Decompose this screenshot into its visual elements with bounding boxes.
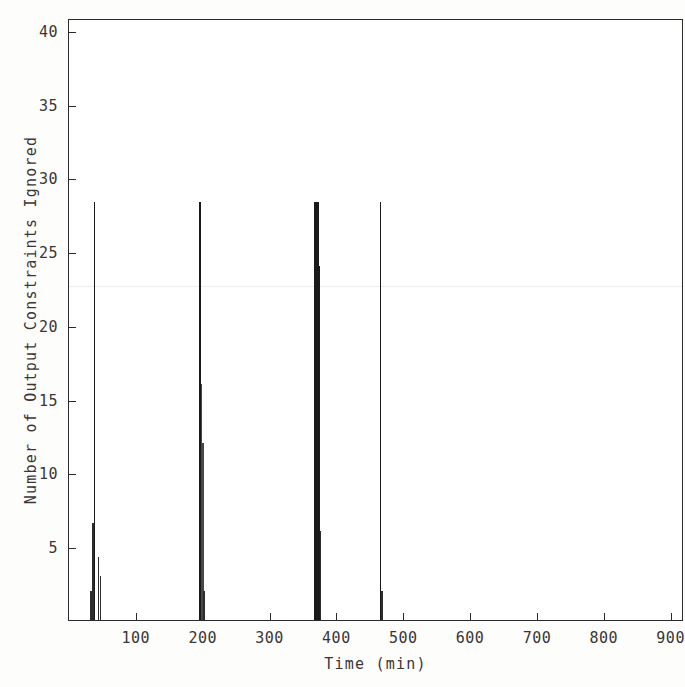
y-tick-25	[69, 253, 76, 254]
x-tick-900	[671, 613, 672, 620]
data-spike	[380, 202, 382, 620]
chart-figure: 510152025303540 100200300400500600700800…	[0, 0, 685, 687]
x-tick-label-600: 600	[456, 629, 485, 647]
data-spike	[100, 576, 102, 620]
y-tick-10	[69, 474, 76, 475]
x-tick-300	[270, 613, 271, 620]
x-tick-label-500: 500	[389, 629, 418, 647]
x-tick-400	[336, 613, 337, 620]
plot-area: 510152025303540 100200300400500600700800…	[68, 19, 683, 621]
x-tick-label-400: 400	[322, 629, 351, 647]
y-tick-15	[69, 401, 76, 402]
x-tick-700	[537, 613, 538, 620]
x-tick-label-300: 300	[255, 629, 284, 647]
data-spike	[381, 591, 383, 621]
y-tick-label-5: 5	[48, 539, 58, 557]
y-axis-title: Number of Output Constraints Ignored	[22, 19, 48, 621]
y-tick-35	[69, 106, 76, 107]
y-tick-5	[69, 548, 76, 549]
x-tick-label-100: 100	[122, 629, 151, 647]
y-tick-30	[69, 179, 76, 180]
data-spike	[94, 202, 96, 620]
x-tick-label-800: 800	[589, 629, 618, 647]
data-spike	[320, 531, 322, 620]
x-tick-500	[403, 613, 404, 620]
x-tick-200	[203, 613, 204, 620]
x-tick-600	[470, 613, 471, 620]
y-tick-40	[69, 32, 76, 33]
x-tick-label-900: 900	[656, 629, 685, 647]
x-tick-800	[604, 613, 605, 620]
x-axis-title: Time (min)	[68, 655, 683, 673]
x-tick-100	[136, 613, 137, 620]
x-tick-label-200: 200	[188, 629, 217, 647]
scan-artifact	[69, 286, 682, 287]
x-tick-label-700: 700	[523, 629, 552, 647]
y-tick-20	[69, 327, 76, 328]
